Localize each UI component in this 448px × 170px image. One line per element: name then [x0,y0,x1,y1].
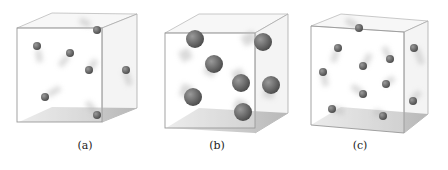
caption-a: (a) [65,139,105,152]
cube-a [17,13,137,122]
cube-c [311,14,428,133]
caption-b: (b) [197,139,237,152]
caption-c: (c) [340,139,380,152]
cube-b [165,14,288,133]
